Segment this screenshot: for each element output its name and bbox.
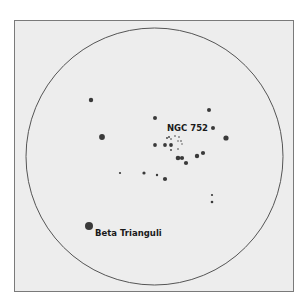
star <box>211 126 215 130</box>
stars-layer <box>85 98 229 230</box>
star <box>178 136 180 138</box>
star <box>176 156 181 161</box>
star <box>184 161 188 165</box>
star <box>180 140 182 142</box>
label-ngc-752: NGC 752 <box>167 123 208 133</box>
star <box>163 143 167 147</box>
star <box>89 98 93 102</box>
star <box>201 151 205 155</box>
star <box>170 138 172 140</box>
star <box>211 194 213 196</box>
star <box>223 135 228 140</box>
star <box>142 171 145 174</box>
star <box>207 108 211 112</box>
star <box>195 154 199 158</box>
star <box>211 201 214 204</box>
star <box>119 172 121 174</box>
star <box>153 116 157 120</box>
star <box>153 143 157 147</box>
star <box>166 137 168 139</box>
label-beta-trianguli: Beta Trianguli <box>95 228 162 238</box>
star <box>177 148 179 150</box>
star <box>163 177 167 181</box>
star <box>170 149 172 151</box>
star <box>181 143 182 144</box>
star <box>156 174 158 176</box>
star-beta-trianguli <box>85 222 93 230</box>
star <box>177 140 178 141</box>
star <box>99 134 105 140</box>
star <box>174 135 176 137</box>
star <box>180 156 184 160</box>
field-of-view-circle <box>26 28 283 285</box>
star <box>168 136 170 138</box>
star-chart: NGC 752 Beta Trianguli <box>0 0 308 301</box>
star <box>169 143 173 147</box>
